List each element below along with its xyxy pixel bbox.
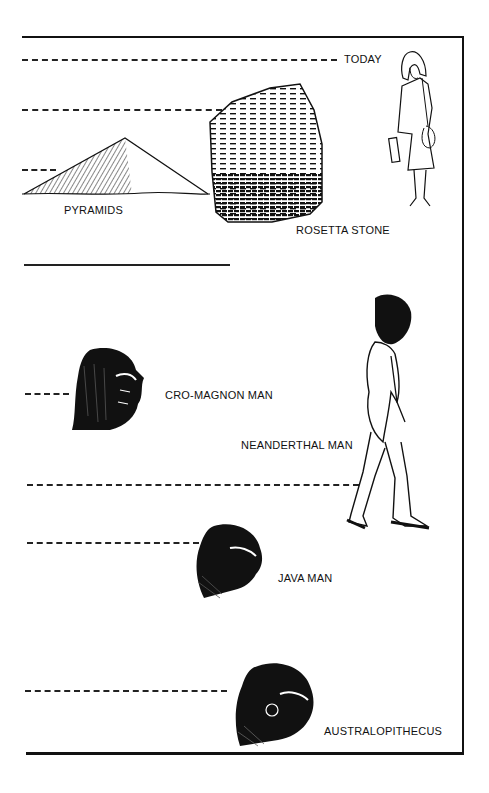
timeline-marker-australopithecus [25, 690, 227, 692]
timeline-marker-rosetta-stone [22, 109, 222, 111]
timeline-marker-cro-magnon [25, 393, 69, 395]
label-rosetta-stone: ROSETTA STONE [296, 224, 390, 236]
label-java-man: JAVA MAN [278, 572, 332, 584]
neanderthal-figure-icon [345, 292, 435, 532]
frame-bottom-border [26, 752, 464, 755]
timeline-marker-today [22, 59, 337, 61]
label-cro-magnon-man: CRO-MAGNON MAN [165, 389, 273, 401]
modern-woman-icon [388, 48, 448, 213]
label-neanderthal-man: NEANDERTHAL MAN [241, 439, 353, 451]
label-pyramids: PYRAMIDS [64, 204, 123, 216]
cro-magnon-head-icon [70, 346, 150, 432]
frame-right-border [462, 36, 464, 755]
timeline-marker-java-man [27, 542, 199, 544]
label-today: TODAY [344, 53, 382, 65]
pyramid-icon [22, 136, 212, 198]
rosetta-stone-icon [210, 82, 325, 227]
scale-break-line [24, 264, 230, 266]
label-australopithecus: AUSTRALOPITHECUS [324, 725, 442, 737]
java-man-head-icon [190, 522, 270, 602]
australopithecus-head-icon [232, 660, 318, 748]
timeline-marker-neanderthal [27, 484, 359, 486]
frame-top-border [22, 36, 464, 38]
